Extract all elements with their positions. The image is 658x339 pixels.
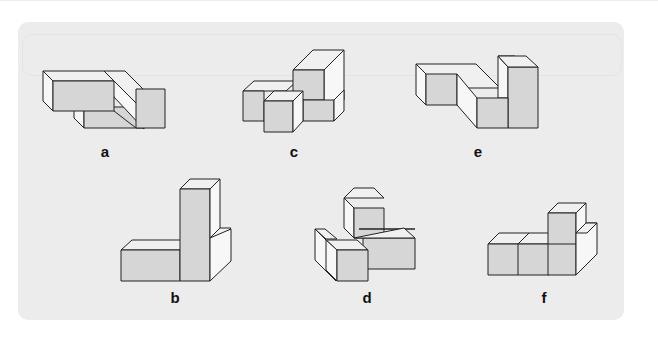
label-f: f [542, 289, 547, 306]
shape-d [315, 188, 415, 281]
label-e: e [474, 143, 482, 160]
label-c: c [290, 143, 298, 160]
shape-c [243, 50, 344, 132]
shape-b [121, 179, 231, 281]
shape-a [43, 71, 165, 129]
shape-e [416, 56, 538, 128]
label-d: d [362, 289, 371, 306]
shape-f [488, 203, 597, 275]
block-figures [0, 0, 658, 339]
label-b: b [170, 289, 179, 306]
label-a: a [101, 143, 109, 160]
